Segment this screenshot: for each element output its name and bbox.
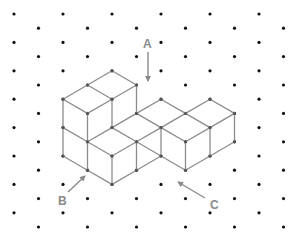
grid-dot bbox=[12, 211, 15, 214]
grid-dot bbox=[37, 83, 40, 86]
grid-dot bbox=[37, 225, 40, 228]
cube-vertex bbox=[233, 112, 236, 115]
cube-vertex bbox=[160, 155, 163, 158]
grid-dot bbox=[257, 98, 260, 101]
cube-vertex bbox=[209, 155, 212, 158]
grid-dot bbox=[61, 211, 64, 214]
grid-dot bbox=[208, 41, 211, 44]
grid-dot bbox=[184, 27, 187, 30]
cube-vertex bbox=[111, 155, 114, 158]
cube-vertex bbox=[111, 183, 114, 186]
cube-vertex bbox=[233, 140, 236, 143]
cube-edge bbox=[63, 85, 88, 99]
cube-edge bbox=[112, 142, 137, 156]
grid-dot bbox=[233, 83, 236, 86]
cube-edge bbox=[112, 128, 137, 142]
grid-dot bbox=[86, 27, 89, 30]
grid-dot bbox=[208, 69, 211, 72]
grid-dot bbox=[159, 41, 162, 44]
cube-edge bbox=[186, 156, 211, 170]
cube-vertex bbox=[111, 69, 114, 72]
grid-dot bbox=[184, 83, 187, 86]
cube-vertex bbox=[86, 112, 89, 115]
cube-edge bbox=[112, 85, 137, 99]
view-label-c: C bbox=[210, 199, 219, 211]
grid-dot bbox=[257, 211, 260, 214]
grid-dot bbox=[208, 12, 211, 15]
cube-vertex bbox=[135, 169, 138, 172]
grid-dot bbox=[282, 27, 285, 30]
grid-dot bbox=[61, 12, 64, 15]
grid-dot bbox=[37, 27, 40, 30]
cube-edge bbox=[63, 156, 88, 170]
grid-dot bbox=[233, 55, 236, 58]
grid-dot bbox=[233, 169, 236, 172]
cube-edge bbox=[186, 128, 211, 142]
cube-edge bbox=[161, 99, 186, 113]
cube-vertex bbox=[62, 126, 65, 129]
cube-vertex bbox=[86, 84, 89, 87]
cube-edge bbox=[112, 71, 137, 85]
grid-dot bbox=[159, 12, 162, 15]
grid-dot bbox=[86, 55, 89, 58]
grid-dot bbox=[184, 55, 187, 58]
grid-dot bbox=[12, 69, 15, 72]
cube-vertex bbox=[135, 84, 138, 87]
cube-vertex bbox=[184, 112, 187, 115]
grid-dot bbox=[159, 211, 162, 214]
view-arrows bbox=[68, 52, 205, 198]
cube-edge bbox=[88, 170, 113, 184]
isometric-figure bbox=[0, 0, 302, 238]
grid-dot bbox=[135, 225, 138, 228]
cube-edge bbox=[112, 113, 137, 127]
cube-vertex bbox=[209, 126, 212, 129]
cube-edge bbox=[88, 128, 113, 142]
grid-dot bbox=[12, 183, 15, 186]
grid-dot bbox=[61, 41, 64, 44]
grid-dot bbox=[184, 197, 187, 200]
cube-edge bbox=[137, 113, 162, 127]
cube-vertex bbox=[184, 169, 187, 172]
cube-vertex bbox=[86, 169, 89, 172]
grid-dot bbox=[282, 55, 285, 58]
cube-edge bbox=[88, 142, 113, 156]
grid-dot bbox=[257, 126, 260, 129]
cube-edge bbox=[137, 156, 162, 170]
view-arrow-c-icon bbox=[178, 182, 205, 198]
cube-edge bbox=[88, 85, 113, 99]
grid-dot bbox=[12, 12, 15, 15]
grid-dot bbox=[12, 98, 15, 101]
grid-dot bbox=[282, 197, 285, 200]
grid-dot bbox=[12, 154, 15, 157]
grid-dot bbox=[37, 197, 40, 200]
cube-edge bbox=[137, 128, 162, 142]
grid-dot bbox=[12, 41, 15, 44]
cube-edge bbox=[210, 142, 235, 156]
cube-edge bbox=[112, 170, 137, 184]
cube-vertex bbox=[184, 140, 187, 143]
grid-dot bbox=[159, 69, 162, 72]
view-label-a: A bbox=[143, 38, 152, 50]
grid-dot bbox=[61, 183, 64, 186]
grid-dot bbox=[110, 41, 113, 44]
view-label-b: B bbox=[58, 195, 67, 207]
grid-dot bbox=[110, 12, 113, 15]
cube-edge bbox=[161, 128, 186, 142]
grid-dot bbox=[135, 55, 138, 58]
cube-edge bbox=[186, 113, 211, 127]
grid-dot bbox=[233, 27, 236, 30]
grid-dot bbox=[257, 69, 260, 72]
grid-dot bbox=[37, 140, 40, 143]
cube-edge bbox=[161, 156, 186, 170]
grid-dot bbox=[110, 211, 113, 214]
cube-edge bbox=[88, 71, 113, 85]
cube-vertex bbox=[111, 126, 114, 129]
cube-vertex bbox=[160, 126, 163, 129]
cube-vertex bbox=[209, 98, 212, 101]
grid-dot bbox=[12, 126, 15, 129]
cube-edge bbox=[63, 128, 88, 142]
grid-dot bbox=[257, 154, 260, 157]
grid-dot bbox=[159, 183, 162, 186]
grid-dot bbox=[135, 27, 138, 30]
grid-dot bbox=[282, 112, 285, 115]
